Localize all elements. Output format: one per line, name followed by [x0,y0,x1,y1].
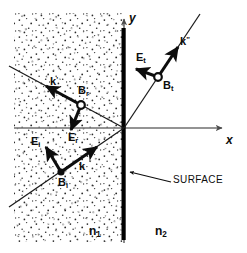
medium-n2-label: n2 [155,225,167,239]
medium-n1-label: n1 [89,225,101,239]
reflected-k-label: k' [50,76,58,87]
wave-boundary-diagram: y x Ei k Bi k' Br Er Et k" Bt SURFACE n1… [0,0,247,253]
transmitted-b-label: Bt [163,80,173,92]
reflected-e-label: Er [68,132,78,144]
surface-leader-line [130,172,171,182]
surface-label: SURFACE [173,175,223,185]
diagram-canvas [0,0,247,253]
incident-k-label: k [79,161,85,172]
y-axis-label: y [129,12,136,24]
transmitted-k-label: k" [180,36,190,47]
incident-e-label: Ei [31,136,40,148]
surface-line [122,28,126,240]
incident-b-marker [57,168,64,175]
transmitted-k-vector [158,47,178,77]
x-axis-label: x [226,134,233,146]
incident-b-label: Bi [58,177,68,189]
transmitted-b-marker [154,73,162,81]
reflected-b-marker [77,101,85,109]
transmitted-e-label: Et [136,52,146,64]
reflected-b-label: Br [78,85,89,97]
